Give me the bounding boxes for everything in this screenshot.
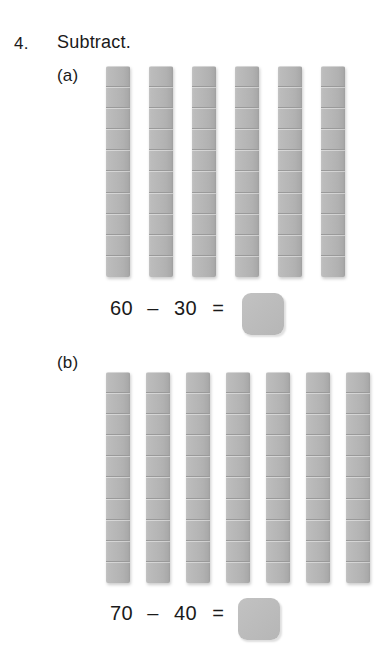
answer-box-b[interactable] [238, 598, 280, 640]
base-ten-unit-cube [278, 108, 302, 129]
question-number: 4. [14, 34, 29, 54]
base-ten-unit-cube [106, 435, 130, 456]
base-ten-unit-cube [106, 66, 130, 87]
base-ten-unit-cube [235, 171, 259, 192]
base-ten-unit-cube [106, 108, 130, 129]
equation-b-equals-sign: = [212, 602, 224, 625]
base-ten-rod [192, 66, 216, 277]
base-ten-unit-cube [226, 435, 250, 456]
base-ten-unit-cube [266, 562, 290, 583]
base-ten-unit-cube [346, 562, 370, 583]
base-ten-unit-cube [106, 87, 130, 108]
base-ten-unit-cube [186, 520, 210, 541]
base-ten-unit-cube [266, 414, 290, 435]
base-ten-unit-cube [226, 372, 250, 393]
base-ten-unit-cube [266, 435, 290, 456]
base-ten-unit-cube [149, 66, 173, 87]
base-ten-unit-cube [321, 87, 345, 108]
base-ten-unit-cube [321, 235, 345, 256]
base-ten-rod [106, 372, 130, 583]
base-ten-unit-cube [226, 541, 250, 562]
base-ten-rod [106, 66, 130, 277]
base-ten-rod [266, 372, 290, 583]
base-ten-unit-cube [149, 87, 173, 108]
base-ten-unit-cube [321, 193, 345, 214]
base-ten-unit-cube [346, 499, 370, 520]
base-ten-unit-cube [192, 193, 216, 214]
base-ten-unit-cube [186, 541, 210, 562]
base-ten-unit-cube [321, 214, 345, 235]
base-ten-unit-cube [146, 414, 170, 435]
base-ten-unit-cube [192, 129, 216, 150]
base-ten-unit-cube [192, 108, 216, 129]
base-ten-unit-cube [192, 66, 216, 87]
base-ten-unit-cube [226, 414, 250, 435]
base-ten-unit-cube [278, 193, 302, 214]
base-ten-rod [306, 372, 330, 583]
base-ten-unit-cube [235, 256, 259, 277]
base-ten-unit-cube [346, 456, 370, 477]
base-ten-unit-cube [192, 256, 216, 277]
base-ten-rod [186, 372, 210, 583]
base-ten-unit-cube [186, 477, 210, 498]
base-ten-unit-cube [235, 214, 259, 235]
equation-a-minuend: 60 [110, 297, 133, 320]
base-ten-unit-cube [106, 393, 130, 414]
base-ten-unit-cube [346, 414, 370, 435]
base-ten-unit-cube [278, 171, 302, 192]
base-ten-rod [146, 372, 170, 583]
base-ten-unit-cube [266, 477, 290, 498]
base-ten-unit-cube [306, 477, 330, 498]
base-ten-unit-cube [186, 393, 210, 414]
base-ten-unit-cube [106, 235, 130, 256]
base-ten-unit-cube [226, 393, 250, 414]
base-ten-unit-cube [186, 414, 210, 435]
answer-box-a[interactable] [242, 293, 284, 335]
base-ten-unit-cube [278, 87, 302, 108]
base-ten-unit-cube [106, 171, 130, 192]
base-ten-unit-cube [186, 499, 210, 520]
equation-b-subtrahend: 40 [174, 602, 197, 625]
base-ten-unit-cube [321, 256, 345, 277]
base-ten-rod [346, 372, 370, 583]
base-ten-unit-cube [235, 66, 259, 87]
equation-a-equals-sign: = [212, 297, 224, 320]
base-ten-unit-cube [266, 541, 290, 562]
equation-b: 70 – 40 = [110, 602, 224, 625]
base-ten-unit-cube [346, 435, 370, 456]
base-ten-unit-cube [266, 372, 290, 393]
base-ten-unit-cube [146, 435, 170, 456]
base-ten-unit-cube [226, 562, 250, 583]
base-ten-unit-cube [149, 256, 173, 277]
equation-b-operator: – [147, 602, 159, 625]
base-ten-unit-cube [146, 456, 170, 477]
base-ten-unit-cube [186, 456, 210, 477]
base-ten-unit-cube [235, 150, 259, 171]
equation-a-operator: – [147, 297, 159, 320]
base-ten-unit-cube [146, 477, 170, 498]
base-ten-unit-cube [346, 372, 370, 393]
worksheet-page: 4. Subtract. (a) 60 – 30 = (b) 70 – 40 = [0, 0, 382, 662]
base-ten-unit-cube [235, 129, 259, 150]
base-ten-unit-cube [278, 235, 302, 256]
base-ten-unit-cube [149, 150, 173, 171]
base-ten-rod [235, 66, 259, 277]
base-ten-unit-cube [278, 66, 302, 87]
base-ten-unit-cube [306, 520, 330, 541]
base-ten-unit-cube [106, 477, 130, 498]
base-ten-unit-cube [149, 193, 173, 214]
base-ten-unit-cube [226, 477, 250, 498]
base-ten-rod [226, 372, 250, 583]
base-ten-unit-cube [186, 562, 210, 583]
base-ten-unit-cube [106, 456, 130, 477]
base-ten-rod [278, 66, 302, 277]
base-ten-unit-cube [226, 456, 250, 477]
base-ten-rod [321, 66, 345, 277]
base-ten-unit-cube [306, 562, 330, 583]
base-ten-unit-cube [106, 372, 130, 393]
equation-a-subtrahend: 30 [174, 297, 197, 320]
base-ten-unit-cube [306, 499, 330, 520]
base-ten-unit-cube [306, 372, 330, 393]
base-ten-unit-cube [278, 214, 302, 235]
base-ten-unit-cube [106, 129, 130, 150]
